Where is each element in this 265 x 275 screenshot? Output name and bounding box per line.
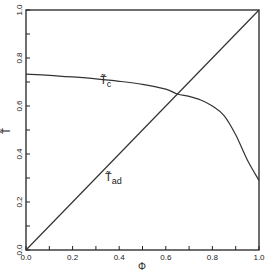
y-axis-ticks: 0.00.20.40.60.81.0 <box>15 4 30 256</box>
y-tick-label: 0.6 <box>15 100 24 112</box>
y-tick-label: 0.8 <box>15 52 24 64</box>
x-tick-label: 0.2 <box>67 253 79 262</box>
curve-label-1: T̃ad <box>105 171 122 186</box>
y-axis-label: T̃ <box>0 128 12 134</box>
chart: 0.00.20.40.60.81.0 0.00.20.40.60.81.0 Φ … <box>0 0 265 275</box>
x-tick-label: 0.4 <box>114 253 126 262</box>
series-line-0 <box>26 74 259 180</box>
x-tick-label: 0.8 <box>207 253 219 262</box>
x-axis-label: Φ <box>138 261 146 272</box>
y-tick-label: 1.0 <box>15 4 24 16</box>
y-tick-label: 0.4 <box>15 148 24 160</box>
x-tick-label: 0.6 <box>160 253 172 262</box>
y-tick-label: 0.2 <box>15 196 24 208</box>
data-series <box>26 10 259 250</box>
x-axis-ticks: 0.00.20.40.60.81.0 <box>20 246 265 262</box>
y-tick-label: 0.0 <box>15 244 24 256</box>
x-tick-label: 1.0 <box>253 253 265 262</box>
curve-label-0: T̃c <box>100 74 112 89</box>
curve-labels: T̃cT̃ad <box>100 74 122 186</box>
series-line-1 <box>26 10 259 250</box>
